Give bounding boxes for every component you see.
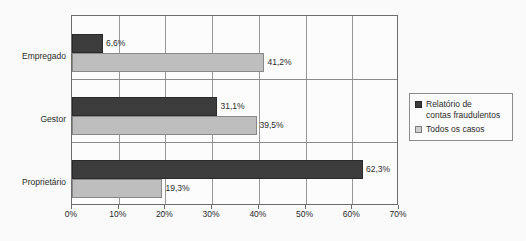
legend-label-todos: Todos os casos	[426, 124, 485, 135]
legend-item-todos: Todos os casos	[415, 124, 507, 135]
x-tick-label-50: 50%	[296, 209, 313, 219]
category-label-empregado: Empregado	[0, 51, 66, 61]
category-label-proprietario: Proprietário	[0, 177, 66, 187]
x-tick-label-70: 70%	[389, 209, 406, 219]
chart-figure: Empregado Gestor Proprietário 6,6% 41,2%…	[0, 0, 526, 241]
bar-gestor-todos	[72, 116, 257, 135]
bar-value-gestor-relatorio: 31,1%	[221, 97, 245, 116]
bar-empregado-todos	[72, 53, 264, 72]
category-separator-1	[72, 79, 397, 80]
bar-proprietario-relatorio	[72, 160, 363, 179]
x-tick-label-20: 20%	[156, 209, 173, 219]
legend-label-relatorio: Relatório de contas fraudulentos	[426, 99, 500, 121]
bar-proprietario-todos	[72, 179, 162, 198]
y-axis-labels: Empregado Gestor Proprietário	[0, 15, 66, 205]
legend-label-relatorio-line2: contas fraudulentos	[426, 110, 500, 120]
legend-swatch-icon-relatorio	[415, 101, 422, 108]
x-tick-label-60: 60%	[343, 209, 360, 219]
x-tick-label-30: 30%	[203, 209, 220, 219]
category-separator-2	[72, 142, 397, 143]
bar-gestor-relatorio	[72, 97, 217, 116]
legend-swatch-icon-todos	[415, 126, 422, 133]
x-tick-label-0: 0%	[65, 209, 77, 219]
bar-value-proprietario-relatorio: 62,3%	[366, 160, 390, 179]
x-tick-label-40: 40%	[249, 209, 266, 219]
legend-item-relatorio: Relatório de contas fraudulentos	[415, 99, 507, 121]
bar-empregado-relatorio	[72, 34, 103, 53]
bar-value-proprietario-todos: 19,3%	[166, 179, 190, 198]
bar-value-gestor-todos: 39,5%	[260, 116, 284, 135]
chart-legend: Relatório de contas fraudulentos Todos o…	[409, 93, 513, 141]
x-tick-label-10: 10%	[109, 209, 126, 219]
legend-label-relatorio-line1: Relatório de	[426, 99, 472, 109]
x-axis-labels: 0% 10% 20% 30% 40% 50% 60% 70%	[0, 209, 526, 225]
bar-value-empregado-relatorio: 6,6%	[106, 34, 125, 53]
bar-value-empregado-todos: 41,2%	[268, 53, 292, 72]
category-label-gestor: Gestor	[0, 114, 66, 124]
plot-area: 6,6% 41,2% 31,1% 39,5% 62,3% 19,3%	[71, 15, 398, 205]
